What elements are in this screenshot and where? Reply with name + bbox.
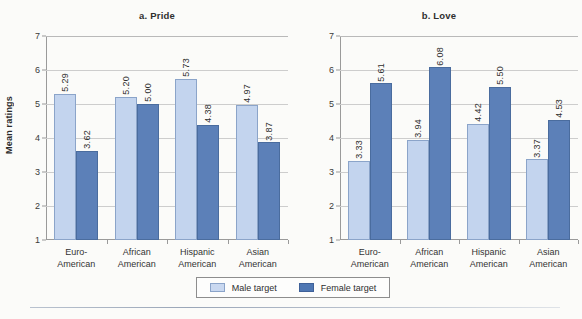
bar-love-female: 5.50 xyxy=(489,87,511,240)
chart-legend: Male target Female target xyxy=(196,277,390,298)
legend-item-female-target: Female target xyxy=(299,283,377,293)
y-axis-tick-label: 3 xyxy=(35,167,40,177)
legend-label-male: Male target xyxy=(232,283,277,293)
x-axis-category-label: AsianAmerican xyxy=(239,247,277,270)
category-label-line1: Asian xyxy=(239,247,277,259)
x-axis-group-tick xyxy=(400,240,401,244)
chart-panel-pride: a. Pride Mean ratings 12345675.293.62Eur… xyxy=(0,0,296,275)
category-label-line2: American xyxy=(529,259,567,271)
bar-pride-male: 4.97 xyxy=(236,105,258,240)
bar-value-label: 5.00 xyxy=(143,83,153,102)
bar-love-male: 4.42 xyxy=(467,124,489,240)
bar-value-label: 3.94 xyxy=(413,119,423,138)
category-label-line1: African xyxy=(118,247,156,259)
bar-value-label: 3.33 xyxy=(354,140,364,159)
y-axis-tick-label: 7 xyxy=(329,31,334,41)
category-label-line1: African xyxy=(410,247,448,259)
page-separator-rule xyxy=(30,307,560,308)
x-axis-group-tick xyxy=(578,240,579,244)
plot-area-love: 12345673.335.61Euro-American3.946.08Afri… xyxy=(340,36,578,240)
bar-value-label: 3.62 xyxy=(82,130,92,149)
x-axis-category-label: AfricanAmerican xyxy=(410,247,448,270)
bar-value-label: 5.50 xyxy=(495,66,505,85)
y-axis-tick-label: 5 xyxy=(35,99,40,109)
y-axis-tick-label: 1 xyxy=(35,235,40,245)
category-label-line1: Asian xyxy=(529,247,567,259)
category-label-line1: Euro- xyxy=(351,247,389,259)
y-axis-label: Mean ratings xyxy=(4,96,14,154)
bar-value-label: 3.37 xyxy=(532,139,542,158)
category-label-line2: American xyxy=(470,259,508,271)
bar-group: 5.205.00AfricanAmerican xyxy=(107,36,168,240)
x-axis-group-tick xyxy=(107,240,108,244)
bar-pride-female: 4.38 xyxy=(197,125,219,240)
y-axis-tick-label: 4 xyxy=(329,133,334,143)
bar-value-label: 5.73 xyxy=(181,58,191,77)
x-axis-category-label: AfricanAmerican xyxy=(118,247,156,270)
figure-container: a. Pride Mean ratings 12345675.293.62Eur… xyxy=(0,0,582,319)
bar-love-female: 4.53 xyxy=(548,120,570,240)
bar-pride-female: 3.87 xyxy=(258,142,280,240)
y-axis-tick-label: 3 xyxy=(329,167,334,177)
y-axis-tick-label: 7 xyxy=(35,31,40,41)
bar-value-label: 3.87 xyxy=(264,122,274,141)
bar-value-label: 4.38 xyxy=(203,104,213,123)
bar-group: 3.946.08AfricanAmerican xyxy=(400,36,460,240)
category-label-line2: American xyxy=(239,259,277,271)
category-label-line1: Euro- xyxy=(57,247,95,259)
bar-value-label: 4.53 xyxy=(554,99,564,118)
bar-value-label: 4.42 xyxy=(473,103,483,122)
y-axis-tick-label: 6 xyxy=(329,65,334,75)
y-axis-tick-label: 5 xyxy=(329,99,334,109)
y-axis-tick-label: 6 xyxy=(35,65,40,75)
bar-group: 4.973.87AsianAmerican xyxy=(228,36,289,240)
bar-group: 3.374.53AsianAmerican xyxy=(519,36,579,240)
legend-swatch-male-icon xyxy=(210,283,225,292)
x-axis-group-tick xyxy=(167,240,168,244)
bar-value-label: 6.08 xyxy=(435,47,445,66)
x-axis-group-tick xyxy=(459,240,460,244)
y-axis-tick-label: 1 xyxy=(329,235,334,245)
x-axis-group-tick xyxy=(519,240,520,244)
bar-group: 5.293.62Euro-American xyxy=(46,36,107,240)
x-axis-category-label: AsianAmerican xyxy=(529,247,567,270)
bar-pride-male: 5.73 xyxy=(175,79,197,240)
y-axis-tick-label: 4 xyxy=(35,133,40,143)
x-axis-group-tick xyxy=(228,240,229,244)
bar-love-male: 3.33 xyxy=(348,161,370,240)
category-label-line2: American xyxy=(118,259,156,271)
y-axis-tick-label: 2 xyxy=(329,201,334,211)
bar-value-label: 5.29 xyxy=(60,73,70,92)
category-label-line2: American xyxy=(410,259,448,271)
bar-love-male: 3.37 xyxy=(526,159,548,240)
category-label-line1: Hispanic xyxy=(178,247,216,259)
category-label-line2: American xyxy=(57,259,95,271)
x-axis-category-label: HispanicAmerican xyxy=(470,247,508,270)
category-label-line2: American xyxy=(178,259,216,271)
bar-group: 3.335.61Euro-American xyxy=(340,36,400,240)
legend-swatch-female-icon xyxy=(299,283,314,292)
panel-title-love: b. Love xyxy=(296,10,582,21)
category-label-line2: American xyxy=(351,259,389,271)
bar-pride-male: 5.29 xyxy=(54,94,76,240)
chart-panel-love: b. Love 12345673.335.61Euro-American3.94… xyxy=(296,0,582,275)
legend-label-female: Female target xyxy=(321,283,377,293)
bar-value-label: 5.61 xyxy=(376,63,386,82)
bar-love-female: 5.61 xyxy=(370,83,392,240)
bar-love-female: 6.08 xyxy=(429,67,451,240)
bar-group: 5.734.38HispanicAmerican xyxy=(167,36,228,240)
x-axis-category-label: Euro-American xyxy=(351,247,389,270)
bar-pride-female: 3.62 xyxy=(76,151,98,240)
bar-pride-female: 5.00 xyxy=(137,104,159,240)
y-axis-tick-label: 2 xyxy=(35,201,40,211)
legend-item-male-target: Male target xyxy=(210,283,277,293)
bar-value-label: 5.20 xyxy=(121,76,131,95)
x-axis-group-tick xyxy=(288,240,289,244)
bar-love-male: 3.94 xyxy=(407,140,429,240)
bar-value-label: 4.97 xyxy=(242,84,252,103)
plot-area-pride: 12345675.293.62Euro-American5.205.00Afri… xyxy=(46,36,288,240)
panel-title-pride: a. Pride xyxy=(0,10,296,21)
x-axis-category-label: Euro-American xyxy=(57,247,95,270)
bar-group: 4.425.50HispanicAmerican xyxy=(459,36,519,240)
category-label-line1: Hispanic xyxy=(470,247,508,259)
